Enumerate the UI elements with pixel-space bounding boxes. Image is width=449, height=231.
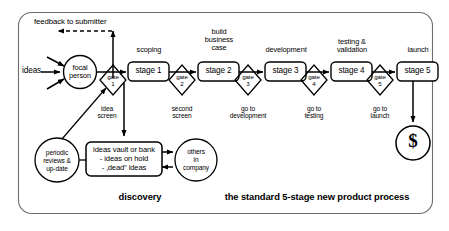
money-symbol-label: $ — [396, 131, 430, 152]
periodic-reviews-line2: reviews & — [36, 157, 78, 164]
stage-5-label: stage 5 — [397, 67, 438, 76]
stage-1-caption: scoping — [123, 46, 175, 54]
gate-2-sub-line2: screen — [163, 112, 201, 119]
ideas-vault-line2: - ideas on hold — [86, 155, 162, 163]
stage-2-caption-line3: case — [194, 44, 244, 52]
ideas-label: ideas — [22, 67, 52, 76]
footer-discovery-label: discovery — [100, 192, 180, 202]
gate-3-sub-line2: development — [222, 112, 274, 119]
others-in-company-line1: others — [175, 148, 217, 155]
gate-1-sub-line2: screen — [88, 112, 126, 119]
gate-4-sub-line2: testing — [295, 112, 333, 119]
ideas-vault-line1: ideas vault or bank — [86, 146, 162, 154]
stage-3-label: stage 3 — [265, 67, 306, 76]
stage-1-label: stage 1 — [128, 67, 169, 76]
others-in-company-line2: in — [175, 156, 217, 163]
stage-5-caption: launch — [392, 46, 444, 54]
gate-2-number: 2 — [169, 81, 195, 88]
footer-process-label: the standard 5-stage new product process — [206, 192, 428, 202]
feedback-to-submitter-label: feedback to submitter — [34, 18, 164, 26]
diagram-canvas: feedback to submitter ideas focal person… — [0, 0, 449, 231]
gate-5-number: 5 — [367, 81, 393, 88]
stage-4-label: stage 4 — [331, 67, 372, 76]
stage-4-caption-line2: validation — [325, 46, 379, 54]
others-in-company-line3: company — [175, 164, 217, 171]
stage-2-label: stage 2 — [198, 67, 239, 76]
periodic-reviews-line3: up-date — [36, 165, 78, 172]
gate-5-sub-line2: launch — [361, 112, 399, 119]
gate-4-number: 4 — [301, 81, 327, 88]
arrow-idea-feed-bottom — [47, 79, 64, 89]
stage-3-caption: development — [255, 46, 317, 54]
gate-3-number: 3 — [235, 81, 261, 88]
gate-1-number: 1 — [100, 81, 126, 88]
periodic-reviews-line1: periodic — [36, 149, 78, 156]
ideas-vault-line3: - ‚dead“ ideas — [86, 164, 162, 172]
focal-person-label-line2: person — [61, 72, 99, 80]
